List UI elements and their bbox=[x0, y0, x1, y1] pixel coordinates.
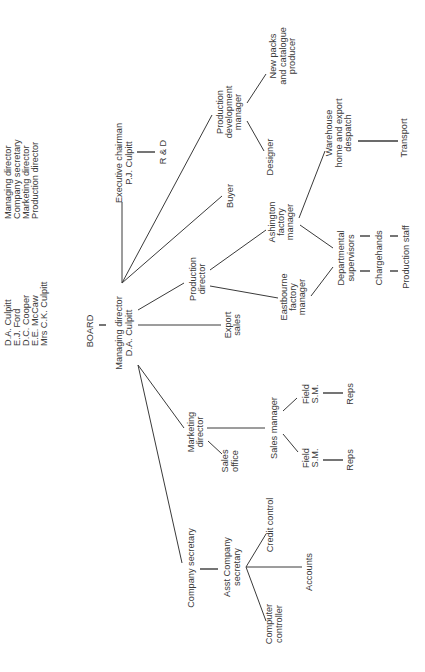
node-title: S.M. bbox=[310, 385, 320, 404]
node-sales-manager: Sales manager bbox=[269, 397, 279, 459]
connector bbox=[246, 567, 266, 621]
node-buyer: Buyer bbox=[225, 184, 235, 208]
node-title: Warehouse bbox=[324, 110, 334, 157]
node-name: D.A. Culpitt bbox=[124, 309, 134, 356]
connector bbox=[311, 267, 333, 296]
board-label: BOARD bbox=[85, 314, 95, 347]
node-title: Asst Company bbox=[222, 537, 232, 597]
node-export-sales: Export sales bbox=[223, 311, 242, 338]
board-member-list: D.A. Culpitt E.J. Ford D.C. Cooper E.E. … bbox=[3, 139, 49, 346]
node-title: director bbox=[195, 417, 205, 448]
node-title: director bbox=[197, 264, 207, 295]
node-title: sales bbox=[232, 314, 242, 336]
node-title: office bbox=[230, 450, 240, 472]
node-field-sm-lower: Field S.M. bbox=[301, 448, 320, 468]
node-title: S.M. bbox=[310, 449, 320, 468]
node-title: Departmental bbox=[336, 230, 346, 285]
board-member-role: Production director bbox=[30, 142, 40, 219]
node-eastbourne-factory-manager: Eastbourne factory manager bbox=[279, 274, 307, 321]
node-production-staff: Production staff bbox=[401, 225, 411, 289]
node-title: Computer bbox=[264, 604, 274, 644]
node-title: secretary bbox=[232, 548, 242, 586]
node-sales-office: Sales office bbox=[220, 449, 240, 472]
node-title: despatch bbox=[343, 114, 353, 151]
connector bbox=[210, 230, 266, 270]
node-title: manager bbox=[297, 279, 307, 315]
node-executive-chairman: Executive chairman P.J. Culpitt bbox=[114, 123, 134, 203]
connector bbox=[122, 196, 222, 283]
node-reps-upper: Reps bbox=[345, 383, 355, 405]
connector bbox=[138, 283, 184, 310]
node-managing-director: Managing director D.A. Culpitt bbox=[114, 296, 134, 370]
node-accounts: Accounts bbox=[304, 553, 314, 591]
connector bbox=[247, 121, 264, 151]
node-ashington-factory-manager: Ashington factory manager bbox=[267, 202, 295, 243]
node-transport: Transport bbox=[399, 118, 409, 157]
node-production-director: Production director bbox=[188, 257, 207, 301]
node-title: controller bbox=[274, 605, 284, 643]
connector bbox=[246, 534, 266, 567]
connector bbox=[300, 225, 333, 248]
node-field-sm-upper: Field S.M. bbox=[301, 384, 320, 404]
org-chart: D.A. Culpitt E.J. Ford D.C. Cooper E.E. … bbox=[0, 0, 425, 672]
node-title: supervisors bbox=[346, 234, 356, 281]
board-member-name: Mrs C.K. Culpitt bbox=[39, 281, 49, 346]
node-chargehands: Chargehands bbox=[374, 230, 384, 286]
node-title: manager bbox=[285, 204, 295, 240]
node-computer-controller: Computer controller bbox=[264, 604, 284, 644]
node-name: P.J. Culpitt bbox=[124, 141, 134, 185]
node-departmental-supervisors: Departmental supervisors bbox=[336, 230, 356, 285]
node-designer: Designer bbox=[265, 139, 275, 176]
node-company-secretary: Company secretary bbox=[186, 528, 196, 608]
node-title: Executive chairman bbox=[114, 123, 124, 203]
node-reps-lower: Reps bbox=[345, 449, 355, 471]
node-r-and-d: R & D bbox=[158, 139, 168, 164]
node-credit-control: Credit control bbox=[265, 498, 275, 553]
node-asst-company-secretary: Asst Company secretary bbox=[222, 537, 242, 597]
node-title: Managing director bbox=[114, 296, 124, 370]
node-title: New packs bbox=[268, 33, 278, 78]
node-warehouse-despatch: Warehouse home and export despatch bbox=[324, 98, 353, 167]
connector bbox=[210, 286, 278, 298]
connector bbox=[247, 74, 266, 103]
node-marketing-director: Marketing director bbox=[186, 412, 205, 452]
connector bbox=[299, 151, 325, 218]
node-title: producer bbox=[287, 38, 297, 74]
node-title: Sales bbox=[220, 449, 230, 472]
node-new-packs-producer: New packs and catalogue producer bbox=[268, 27, 297, 85]
connector bbox=[283, 398, 297, 411]
node-title: manager bbox=[233, 94, 243, 130]
node-production-development-manager: Production development manager bbox=[215, 85, 243, 138]
connector bbox=[283, 434, 298, 452]
